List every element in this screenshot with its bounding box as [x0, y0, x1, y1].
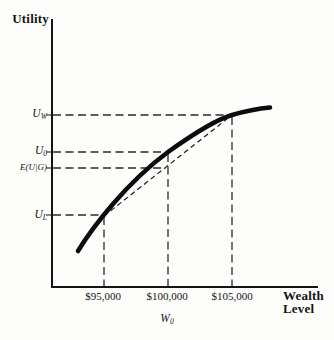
- x-tick-105000: $105,000: [198, 291, 266, 303]
- w0-subscript: 0: [170, 317, 174, 326]
- uw-base: U: [32, 107, 40, 119]
- x-tick-95000: $95,000: [73, 291, 133, 303]
- gamble-chord-line: [104, 115, 232, 216]
- w0-base: W: [160, 312, 170, 324]
- initial-wealth-marker: W0: [133, 312, 201, 326]
- ul-subscript: L: [43, 213, 47, 222]
- y-label-expected-utility: E(U|G): [0, 163, 52, 172]
- x-axis-title-line2: Level: [283, 302, 324, 315]
- uw-subscript: W: [41, 112, 47, 121]
- utility-wealth-chart: Utility UW U0 E(U|G) UL $95,000 $100,000…: [0, 0, 334, 340]
- u0-subscript: 0: [43, 149, 47, 158]
- y-label-uw: UW: [0, 107, 52, 121]
- x-axis-title: Wealth Level: [283, 289, 324, 315]
- utility-curve-line: [78, 108, 270, 252]
- axis-lines: [52, 20, 317, 287]
- y-label-ul: UL: [0, 208, 52, 222]
- y-label-u0: U0: [0, 144, 52, 158]
- x-tick-100000: $100,000: [133, 291, 201, 303]
- u0-base: U: [35, 144, 43, 156]
- y-axis-title: Utility: [5, 12, 49, 26]
- ul-base: U: [34, 208, 42, 220]
